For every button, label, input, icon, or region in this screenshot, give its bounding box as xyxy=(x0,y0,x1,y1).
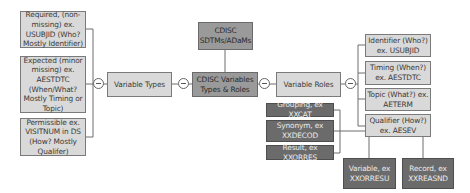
qualifier-result-label: Result, ex XXORRES xyxy=(267,143,333,162)
type-expected-box: Expected (minor missing) ex. AESTDTC (Wh… xyxy=(20,56,86,113)
type-required-label: Required, (non-missing) ex. USUBJID (Who… xyxy=(21,10,85,48)
variable-types-box: Variable Types xyxy=(107,72,172,97)
role-timing-box: Timing (When?) ex. AESTDTC xyxy=(365,61,431,85)
qualifier-synonym-label: Synonym, ex XXDECOD xyxy=(267,121,333,140)
collapse-types-branch-icon[interactable] xyxy=(178,78,189,89)
type-expected-label: Expected (minor missing) ex. AESTDTC (Wh… xyxy=(21,56,85,114)
role-topic-label: Topic (What?) ex. AETERM xyxy=(366,90,430,109)
role-qualifier-box: Qualifier (How?) ex. AESEV xyxy=(365,114,431,137)
type-permissible-label: Permissible ex. VISITNUM in DS (How? Mos… xyxy=(21,118,85,156)
cdisc-source-box: CDISC SDTMs/ADaMs xyxy=(198,22,253,50)
role-identifier-box: Identifier (Who?) ex. USUBJID xyxy=(365,34,431,57)
qualifier-grouping-box: Grouping, ex XXCAT xyxy=(266,103,334,117)
qualifier-grouping-label: Grouping, ex XXCAT xyxy=(267,100,333,119)
variable-types-label: Variable Types xyxy=(114,80,165,90)
variable-roles-box: Variable Roles xyxy=(276,72,341,97)
qualifier-synonym-box: Synonym, ex XXDECOD xyxy=(266,120,334,142)
qualifier-variable-box: Variable, ex XXORRESU xyxy=(343,158,396,189)
type-required-box: Required, (non-missing) ex. USUBJID (Who… xyxy=(20,11,86,48)
role-topic-box: Topic (What?) ex. AETERM xyxy=(365,88,431,111)
center-topic-label: CDISC Variables Types & Roles xyxy=(193,75,257,94)
type-permissible-box: Permissible ex. VISITNUM in DS (How? Mos… xyxy=(20,118,86,156)
qualifier-record-box: Record, ex XXREASND xyxy=(402,158,454,189)
cdisc-source-label: CDISC SDTMs/ADaMs xyxy=(199,26,252,45)
center-topic-box: CDISC Variables Types & Roles xyxy=(192,72,258,97)
collapse-variable-roles-icon[interactable] xyxy=(345,78,356,89)
variable-roles-label: Variable Roles xyxy=(284,80,334,90)
qualifier-variable-label: Variable, ex XXORRESU xyxy=(344,164,395,183)
collapse-variable-types-icon[interactable] xyxy=(93,78,104,89)
qualifier-result-box: Result, ex XXORRES xyxy=(266,145,334,160)
collapse-roles-branch-icon[interactable] xyxy=(259,78,270,89)
qualifier-record-label: Record, ex XXREASND xyxy=(403,164,453,183)
role-qualifier-label: Qualifier (How?) ex. AESEV xyxy=(366,116,430,135)
role-timing-label: Timing (When?) ex. AESTDTC xyxy=(366,63,430,82)
role-identifier-label: Identifier (Who?) ex. USUBJID xyxy=(366,36,430,55)
